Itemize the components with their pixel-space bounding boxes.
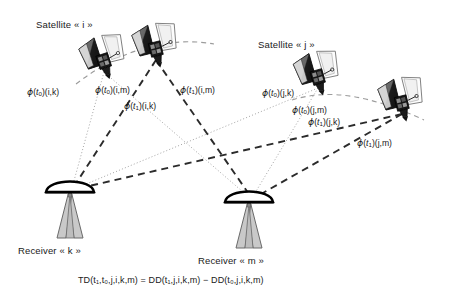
phase-label-phi-t1-i-m: ϕ(t1)(i,m)	[180, 85, 215, 96]
satellite-glyph-i-t1	[130, 19, 183, 72]
receiver-label-k: Receiver « k »	[18, 246, 81, 256]
eq-equals: =	[138, 275, 149, 285]
receiver-label-m: Receiver « m »	[198, 256, 264, 266]
phase-label-phi-t0-j-k: ϕ(t0)(j,k)	[262, 88, 294, 99]
eq-lhs-fn: TD	[78, 275, 90, 285]
satellite-label-i-t0: Satellite « i »	[36, 20, 93, 30]
eq-rhs1-args: (t₁,j,i,k,m)	[162, 275, 201, 285]
phase-args: (j,k)	[280, 88, 294, 98]
satellite-label-j-t0: Satellite « j »	[258, 40, 315, 50]
phase-label-phi-t0-i-k: ϕ(t0)(i,k)	[27, 87, 59, 98]
eq-minus: −	[200, 275, 211, 285]
receiver-glyph-m	[225, 192, 273, 249]
phase-args: (i,k)	[142, 101, 156, 111]
eq-rhs2-fn: DD	[211, 275, 224, 285]
phase-args: (i,m)	[198, 85, 215, 95]
eq-rhs1-fn: DD	[149, 275, 162, 285]
phase-args: (j,m)	[310, 105, 327, 115]
phase-label-phi-t1-i-k: ϕ(t1)(i,k)	[124, 101, 156, 112]
phase-label-phi-t1-j-m: ϕ(t1)(j,m)	[357, 138, 392, 149]
figure-canvas: Satellite « i »Satellite « j »Receiver «…	[0, 0, 450, 292]
satellite-glyph-j-t1	[376, 73, 429, 126]
receiver-glyph-group	[46, 182, 273, 249]
satellite-glyph-j-t0	[292, 46, 346, 100]
phase-label-phi-t1-j-k: ϕ(t1)(j,k)	[308, 117, 340, 128]
eq-rhs2-args: (t₀,j,i,k,m)	[224, 275, 263, 285]
phase-args: (i,m)	[113, 85, 130, 95]
phase-args: (j,k)	[326, 117, 340, 127]
phase-args: (i,k)	[45, 87, 59, 97]
phase-label-phi-t0-i-m: ϕ(t0)(i,m)	[95, 85, 130, 96]
phase-label-phi-t0-j-m: ϕ(t0)(j,m)	[292, 105, 327, 116]
triple-difference-equation: TD(t₁,t₀,j,i,k,m) = DD(t₁,j,i,k,m) − DD(…	[78, 276, 264, 285]
satellite-glyph-i-t0	[77, 30, 132, 85]
receiver-glyph-k	[46, 182, 94, 239]
phase-args: (j,m)	[375, 138, 392, 148]
eq-lhs-args: (t₁,t₀,j,i,k,m)	[90, 275, 138, 285]
